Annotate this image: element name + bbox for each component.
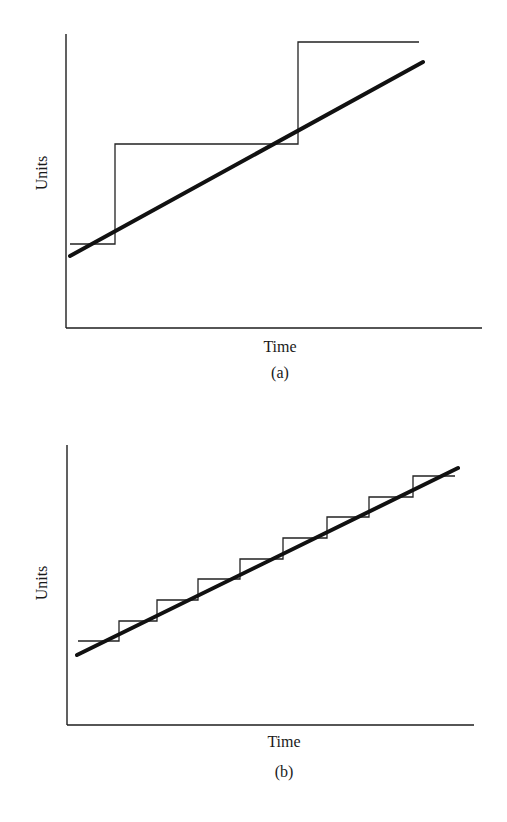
step-series [78,476,455,641]
trend-line [77,468,458,655]
step-series [70,42,419,244]
chart-panel-a: Time Units (a) [33,34,482,382]
x-axis-label: Time [263,338,296,355]
y-axis-label: Units [33,566,50,601]
y-axis-label: Units [33,156,50,191]
x-axis-label: Time [267,733,300,750]
panel-label: (a) [271,364,289,382]
trend-line [70,62,423,256]
panel-label: (b) [275,763,294,781]
chart-panel-b: Time Units (b) [33,445,474,781]
figure-canvas: Time Units (a) Time Units (b) [0,0,507,822]
